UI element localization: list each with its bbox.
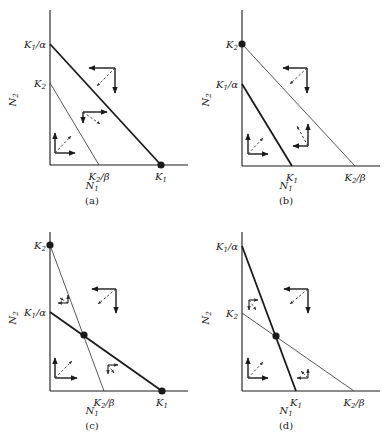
N1-isocline-line: [50, 44, 161, 165]
resultant-arrow: [249, 300, 256, 310]
y-tick-label: K1/α: [215, 241, 238, 254]
vector-field-arrows: [293, 124, 308, 146]
panel-caption: (b): [279, 195, 293, 206]
x-tick-label: K1: [154, 171, 167, 184]
equilibrium-point: [80, 331, 87, 338]
panel-caption: (c): [85, 420, 99, 431]
resultant-arrow: [297, 126, 308, 146]
vector-field-arrows: [92, 289, 116, 313]
competition-phase-plane-figure: K1/αK2K2/βK1N1N2(a)K2K1/αK1K2/βN1N2(b)K2…: [0, 0, 391, 446]
resultant-arrow: [97, 68, 115, 86]
y-tick-label: K2: [225, 308, 238, 321]
y-axis-label: N2: [7, 93, 20, 108]
resultant-arrow: [83, 112, 100, 124]
vector-field-arrows: [249, 300, 258, 310]
y-tick-label: K2: [225, 39, 238, 52]
vector-field-arrows: [55, 133, 75, 153]
vector-field-arrows: [58, 295, 68, 303]
panel-caption: (a): [85, 195, 99, 206]
x-tick-label: K2/β: [343, 172, 365, 185]
resultant-arrow: [55, 136, 71, 153]
N2-isocline-line: [242, 313, 354, 391]
y-axis-label: N2: [7, 311, 20, 326]
y-tick-label: K2: [33, 78, 46, 91]
y-axis-label: N2: [200, 311, 213, 326]
resultant-arrow: [108, 365, 114, 373]
vector-field-arrows: [55, 358, 77, 378]
x-tick-label: K2/β: [342, 397, 364, 410]
vector-field-arrows: [248, 358, 268, 378]
y-tick-label: K2: [33, 240, 46, 253]
equilibrium-point: [238, 40, 245, 47]
vector-field-arrows: [108, 365, 118, 374]
vector-field-arrows: [248, 134, 268, 154]
y-tick-label: K1/α: [23, 307, 46, 320]
vector-field-arrows: [83, 112, 107, 124]
panel-b: K2K1/αK1K2/βN1N2(b): [200, 10, 380, 206]
vector-field-arrows: [284, 289, 308, 313]
resultant-arrow: [248, 138, 263, 154]
resultant-arrow: [248, 362, 263, 378]
equilibrium-point: [158, 387, 165, 394]
vector-field-arrows: [89, 68, 115, 93]
N2-isocline-line: [242, 44, 355, 166]
equilibrium-point: [46, 241, 53, 248]
resultant-arrow: [60, 298, 68, 303]
vector-field-arrows: [283, 68, 307, 93]
panel-a: K1/αK2K2/βK1N1N2(a): [7, 10, 188, 206]
resultant-arrow: [55, 361, 72, 378]
panel-caption: (d): [279, 420, 293, 431]
x-tick-label: K2/β: [92, 397, 114, 410]
x-tick-label: K1: [289, 397, 302, 410]
N1-isocline-line: [50, 312, 162, 391]
equilibrium-point: [157, 161, 164, 168]
vector-field-arrows: [297, 369, 308, 378]
panel-d: K1/αK2K1K2/βN1N2(d): [200, 232, 380, 431]
panel-c: K2K1/αK2/βK1N1N2(c): [7, 232, 188, 431]
y-axis-label: N2: [200, 93, 213, 108]
y-tick-label: K1/α: [215, 79, 238, 92]
resultant-arrow: [290, 68, 307, 84]
x-tick-label: K1: [155, 397, 168, 410]
equilibrium-point: [272, 332, 279, 339]
y-tick-label: K1/α: [23, 39, 46, 52]
resultant-arrow: [290, 289, 308, 304]
resultant-arrow: [98, 289, 116, 304]
resultant-arrow: [301, 371, 308, 378]
